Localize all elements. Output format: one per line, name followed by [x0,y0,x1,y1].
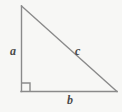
triangle-drawing [0,0,122,112]
side-label-c: c [75,45,80,57]
triangle-side-c-hypotenuse [22,6,118,92]
right-angle-square-icon [22,83,31,92]
side-label-b: b [67,94,73,106]
side-label-a: a [10,45,16,57]
right-triangle-figure: a c b [0,0,122,112]
